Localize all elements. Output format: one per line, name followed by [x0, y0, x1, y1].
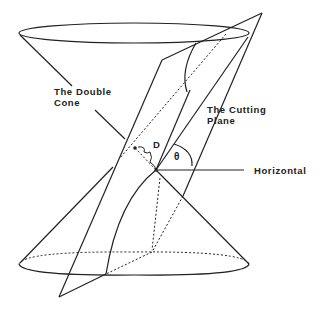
- distance-perpendicular: [135, 148, 156, 170]
- lower-cone-left-side: [20, 167, 113, 263]
- parabola-lower: [106, 170, 156, 274]
- bottom-cone-rim-front: [19, 264, 249, 275]
- label-angle: θ: [174, 151, 180, 162]
- top-cone-rim: [19, 23, 249, 43]
- label-horizontal: Horizontal: [254, 165, 306, 176]
- foot-point: [133, 146, 137, 150]
- label-double-cone: The Double Cone: [54, 86, 112, 108]
- cone-left-generator-lower: [95, 110, 125, 139]
- lower-cone-right-side: [156, 170, 249, 264]
- parabola-upper: [185, 43, 196, 92]
- plane-apex-line: [156, 90, 190, 170]
- upper-cone-left-side: [20, 35, 72, 86]
- plane-top-edge: [162, 13, 262, 60]
- plane-bottom-edge: [59, 274, 106, 297]
- distance-brace: [138, 147, 156, 170]
- bottom-cone-rim-back: [19, 252, 249, 264]
- plane-right-edge-hidden: [152, 196, 183, 252]
- label-distance: D: [153, 139, 160, 150]
- hidden-generator: [120, 34, 226, 158]
- apex-point: [154, 168, 157, 171]
- double-cone-diagram: [0, 0, 322, 312]
- label-cutting-plane: The Cutting Plane: [207, 104, 266, 126]
- plane-bottom-edge-hidden: [106, 252, 152, 274]
